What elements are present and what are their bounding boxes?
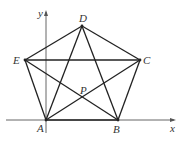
diagonal-BE: [25, 60, 118, 120]
label-y-axis: y: [38, 8, 43, 19]
label-point-D: D: [79, 13, 87, 24]
diagonal-AC: [46, 60, 140, 120]
label-point-C: C: [143, 55, 150, 66]
edge-CD: [82, 26, 140, 60]
label-point-E: E: [13, 55, 20, 66]
diagonal-BD: [82, 26, 118, 120]
label-point-P: P: [80, 85, 87, 96]
pentagon-diagram: y x D E C P A B: [0, 0, 187, 143]
edge-BC: [118, 60, 140, 120]
diagonal-AD: [46, 26, 82, 120]
diagram-svg: [0, 0, 187, 143]
pentagon-edges: [25, 26, 140, 120]
edge-DE: [25, 26, 82, 60]
label-point-A: A: [37, 123, 44, 134]
label-point-B: B: [113, 124, 120, 135]
y-axis-arrow-icon: [44, 10, 48, 16]
edge-EA: [25, 60, 46, 120]
label-x-axis: x: [170, 123, 175, 134]
